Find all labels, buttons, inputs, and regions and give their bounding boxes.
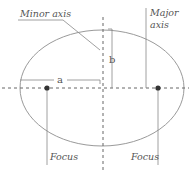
ellipse-diagram: Minor axis Major axis b a Focus Focus bbox=[0, 0, 189, 171]
semi-major-label: a bbox=[57, 74, 63, 85]
major-axis-label-2: axis bbox=[150, 19, 169, 30]
focus-left-label: Focus bbox=[49, 151, 78, 162]
minor-axis-label: Minor axis bbox=[19, 8, 71, 19]
focus-right-label: Focus bbox=[130, 151, 159, 162]
focus-right-dot bbox=[155, 85, 160, 90]
minor-axis-leader bbox=[18, 20, 100, 50]
semi-minor-label: b bbox=[109, 54, 115, 65]
major-axis-label-1: Major bbox=[149, 7, 180, 18]
focus-left-dot bbox=[44, 85, 49, 90]
